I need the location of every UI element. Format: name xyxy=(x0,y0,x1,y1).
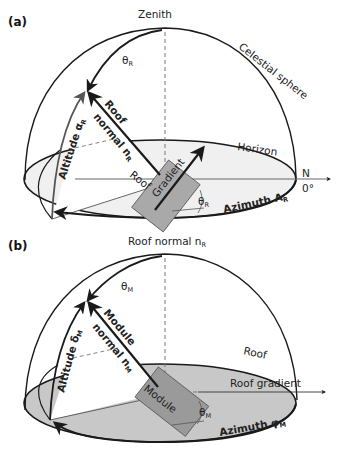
roof-gradient-label: Roof gradient xyxy=(230,377,301,389)
celestial-diagram: (a) Zenith xyxy=(0,0,344,455)
panel-b: (b) Roof normal nR θM xyxy=(8,235,325,442)
panel-a-label: (a) xyxy=(8,15,27,29)
zenith-label: Zenith xyxy=(138,8,172,20)
theta-r-label: θR xyxy=(122,54,133,68)
panel-a: (a) Zenith xyxy=(8,8,330,232)
panel-b-label: (b) xyxy=(8,239,28,253)
roof-normal-top-label: Roof normal nR xyxy=(128,235,207,249)
theta-m-arc xyxy=(88,256,162,300)
roof-label: Roof xyxy=(243,344,269,361)
theta-m-label: θM xyxy=(121,280,133,294)
zero-degree-label: 0° xyxy=(302,182,314,194)
north-label: N xyxy=(302,167,310,179)
